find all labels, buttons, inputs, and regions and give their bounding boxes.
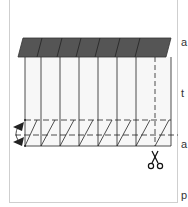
scissors-icon	[148, 151, 162, 169]
clipped-side-text: a t a p t t t e t e l	[181, 0, 188, 207]
side-text-line: a	[181, 136, 188, 153]
roof-band	[18, 38, 171, 57]
side-text-line: a	[181, 34, 188, 51]
folding-diagram	[0, 0, 188, 207]
side-text-line: t	[181, 85, 188, 102]
fold-arrow-icon	[13, 119, 26, 147]
side-text-line: p	[181, 187, 188, 204]
